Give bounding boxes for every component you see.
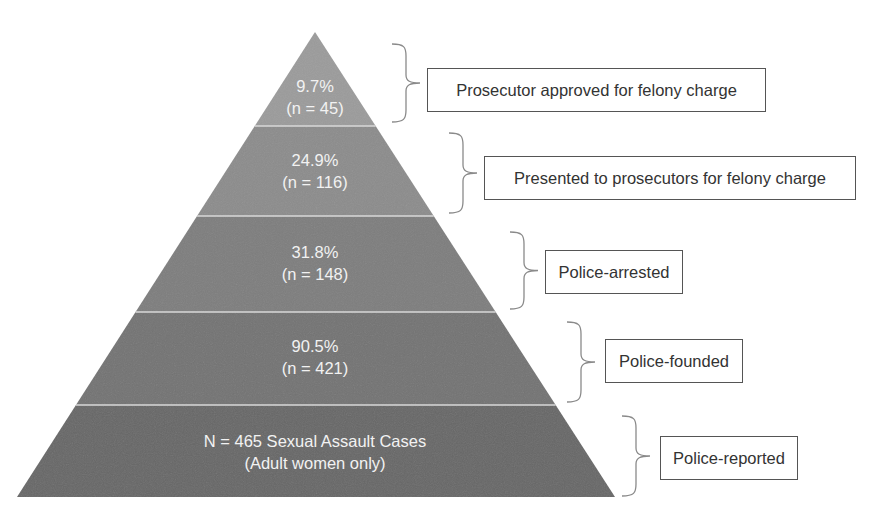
stage-box-police-arrested: Police-arrested (545, 250, 683, 294)
tier-count: (n = 116) (282, 171, 347, 193)
stage-box-prosecutor-approved: Prosecutor approved for felony charge (427, 68, 766, 112)
stage-box-presented-to-prosecutors: Presented to prosecutors for felony char… (484, 156, 856, 200)
tier-label-prosecutor-approved: 9.7% (n = 45) (286, 75, 343, 119)
stage-box-police-reported: Police-reported (660, 436, 798, 480)
stage-label: Prosecutor approved for felony charge (456, 80, 737, 100)
tier-subtitle: (Adult women only) (204, 452, 426, 474)
curly-brace-icon (510, 232, 538, 309)
stage-box-police-founded: Police-founded (605, 339, 743, 383)
stage-label: Police-reported (673, 448, 785, 468)
tier-percent: 31.8% (282, 241, 349, 263)
tier-count: (n = 421) (282, 357, 349, 379)
curly-brace-icon (622, 416, 650, 496)
stage-label: Presented to prosecutors for felony char… (514, 168, 826, 188)
tier-label-police-arrested: 31.8% (n = 148) (282, 241, 349, 285)
tier-count: (n = 45) (286, 97, 343, 119)
curly-brace-icon (567, 322, 595, 402)
stage-label: Police-arrested (559, 262, 670, 282)
tier-label-presented-to-prosecutors: 24.9% (n = 116) (282, 149, 347, 193)
stage-label: Police-founded (619, 351, 729, 371)
tier-label-police-reported: N = 465 Sexual Assault Cases (Adult wome… (204, 430, 426, 474)
funnel-pyramid-diagram: 9.7% (n = 45) 24.9% (n = 116) 31.8% (n =… (0, 0, 872, 515)
tier-percent: 90.5% (282, 335, 349, 357)
tier-total: N = 465 Sexual Assault Cases (204, 430, 426, 452)
tier-percent: 24.9% (282, 149, 347, 171)
curly-brace-icon (392, 44, 420, 122)
tier-count: (n = 148) (282, 263, 349, 285)
curly-brace-icon (449, 133, 477, 213)
tier-percent: 9.7% (286, 75, 343, 97)
tier-label-police-founded: 90.5% (n = 421) (282, 335, 349, 379)
